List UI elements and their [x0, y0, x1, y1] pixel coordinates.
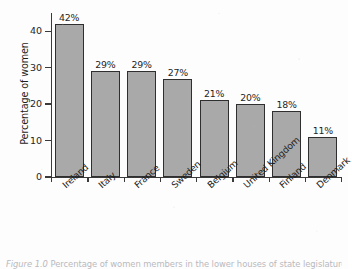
y-axis-tick-label: 30: [2, 62, 42, 73]
y-axis-tick: [45, 103, 51, 104]
x-axis-tick: [87, 177, 88, 182]
y-axis-tick-label: 20: [2, 98, 42, 109]
bar: [55, 24, 84, 177]
bar-value-label: 11%: [308, 125, 337, 136]
y-axis-tick: [45, 67, 51, 68]
y-axis-title: Percentage of women: [19, 14, 30, 174]
y-axis-tick-label: 40: [2, 25, 42, 36]
x-axis-tick: [196, 177, 197, 182]
y-axis-line: [51, 13, 52, 178]
bar-value-label: 29%: [127, 59, 156, 70]
bar: [127, 71, 156, 177]
figure-caption: Figure 1.0 Percentage of women members i…: [6, 259, 342, 269]
x-axis-tick: [124, 177, 125, 182]
bar-value-label: 20%: [236, 92, 265, 103]
x-axis-tick: [160, 177, 161, 182]
bar: [91, 71, 120, 177]
figure-caption-text: Percentage of women members in the lower…: [50, 259, 342, 269]
y-axis-tick: [45, 140, 51, 141]
bar-value-label: 29%: [91, 59, 120, 70]
y-axis-tick-label: 0: [2, 171, 42, 182]
y-axis-tick-label: 10: [2, 135, 42, 146]
x-axis-tick: [341, 177, 342, 182]
x-axis-tick: [51, 177, 52, 182]
bar-value-label: 21%: [200, 88, 229, 99]
bar-value-label: 42%: [55, 12, 84, 23]
x-axis-tick: [269, 177, 270, 182]
bar: [163, 79, 192, 177]
bar-value-label: 27%: [163, 67, 192, 78]
x-axis-tick: [232, 177, 233, 182]
bar-value-label: 18%: [272, 99, 301, 110]
y-axis-tick: [45, 31, 51, 32]
figure-caption-label: Figure 1.0: [6, 259, 48, 269]
x-axis-tick: [305, 177, 306, 182]
